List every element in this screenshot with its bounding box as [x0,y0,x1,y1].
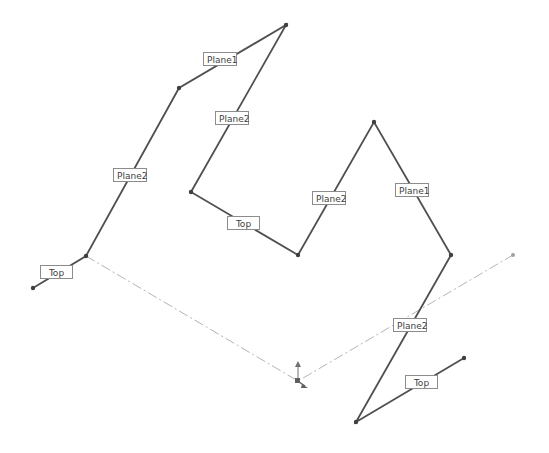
construction-centerline [86,255,513,381]
origin-triad-icon [295,361,308,388]
relation-label-plane2[interactable]: Plane2 [312,191,346,205]
sketch-polyline-right[interactable] [356,255,464,422]
relation-label-top[interactable]: Top [227,216,260,230]
relation-label-plane1[interactable]: Plane1 [203,52,237,66]
construction-endpoint [511,253,515,257]
sketch-canvas[interactable] [0,0,549,453]
sketch-polyline-left[interactable] [33,25,451,288]
relation-label-plane2[interactable]: Plane2 [393,318,427,332]
relation-label-plane1[interactable]: Plane1 [395,183,429,197]
relation-label-top[interactable]: Top [405,375,438,389]
relation-label-plane2[interactable]: Plane2 [113,168,147,182]
relation-label-top[interactable]: Top [40,265,73,279]
relation-label-plane2[interactable]: Plane2 [215,111,249,125]
